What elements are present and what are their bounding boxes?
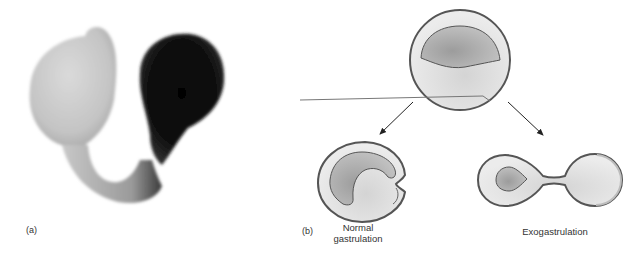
panel-a-photo: (a) xyxy=(0,0,300,256)
normal-gastrulation-caption: Normal gastrulation xyxy=(328,222,388,244)
panel-a-label: (a) xyxy=(26,225,37,236)
exogastrulation-embryo xyxy=(478,154,622,206)
normal-caption-line1: Normal xyxy=(328,222,388,233)
panel-b-diagram: (b) Normal gastrulation Exogastrulation xyxy=(300,0,644,256)
exogastrulation-caption: Exogastrulation xyxy=(505,226,605,237)
embryo-photo xyxy=(0,0,300,256)
panel-b-label: (b) xyxy=(302,226,313,237)
arrow-left xyxy=(380,102,413,134)
normal-gastrulation-embryo xyxy=(318,142,405,222)
gastrulation-diagram xyxy=(300,0,644,256)
blastula xyxy=(300,10,510,110)
normal-caption-line2: gastrulation xyxy=(328,233,388,244)
arrow-right xyxy=(508,102,543,135)
